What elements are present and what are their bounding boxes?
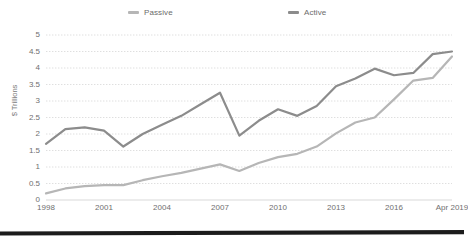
x-axis-tick-label: 2016 [385,204,403,212]
legend-swatch-active [288,11,299,14]
chart-svg [46,35,452,200]
y-axis-tick-label: 1.5 [14,147,40,155]
chart-legend: Passive Active [0,8,464,26]
legend-swatch-passive [128,11,139,14]
y-axis-tick-label: 2.5 [14,114,40,122]
x-axis-tick-label: 2004 [153,204,171,212]
legend-item-active[interactable]: Active [288,8,326,17]
x-axis-tick-label: 2013 [327,204,345,212]
series-line-passive [46,56,452,193]
y-axis-tick-label: 0 [14,196,40,204]
y-axis-tick-label: 5 [14,31,40,39]
x-axis-tick-label: 2007 [211,204,229,212]
x-axis-tick-label: 1998 [37,204,55,212]
series-line-active [46,52,452,147]
y-axis-tick-label: 1 [14,163,40,171]
y-axis-tick-label: 0.5 [14,180,40,188]
x-axis-tick-label: 2010 [269,204,287,212]
y-axis-tick-label: 4.5 [14,48,40,56]
plot-area [46,35,452,200]
bottom-rule [0,222,464,228]
y-axis-tick-label: 4 [14,64,40,72]
legend-label-passive: Passive [144,8,173,17]
y-axis-tick-label: 3.5 [14,81,40,89]
legend-label-active: Active [304,8,326,17]
x-axis-tick-label: Apr 2019 [436,204,468,212]
bottom-rule-shape [0,230,464,236]
y-axis-ticks: 00.511.522.533.544.55 [14,0,40,235]
y-axis-tick-label: 2 [14,130,40,138]
x-axis-tick-label: 2001 [95,204,113,212]
legend-item-passive[interactable]: Passive [128,8,173,17]
y-axis-tick-label: 3 [14,97,40,105]
